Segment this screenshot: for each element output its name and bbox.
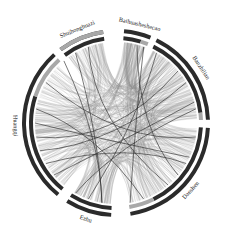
inner-track-light-banzhilian	[198, 112, 203, 120]
sector-label-danshen: Danshen	[180, 179, 200, 200]
inner-track-dark-baihuasheshecao	[123, 36, 141, 43]
inner-track-light-baihuasheshecao	[140, 40, 148, 46]
chord-links	[35, 42, 197, 203]
chord-diagram: Baihuasheshecao Banzhilian Danshen Ezhu …	[0, 0, 233, 246]
chord-diagram-svg: Baihuasheshecao Banzhilian Danshen Ezhu …	[0, 0, 233, 246]
sector-label-ezhu: Ezhu	[79, 213, 93, 224]
sector-label-huangqi: Huangqi	[12, 115, 20, 137]
